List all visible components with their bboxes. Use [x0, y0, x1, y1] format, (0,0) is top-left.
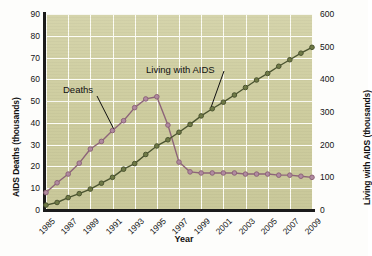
data-point	[210, 106, 215, 111]
data-point	[221, 100, 226, 105]
y-tick-label-left: 40	[16, 118, 40, 128]
data-point	[77, 161, 82, 166]
data-point	[66, 172, 71, 177]
data-point	[288, 173, 293, 178]
y-tick-label-right: 200	[320, 140, 346, 150]
data-point	[132, 105, 137, 110]
data-point	[166, 137, 171, 142]
y-tick-label-left: 30	[16, 140, 40, 150]
annotation-leader-deaths	[97, 96, 114, 129]
data-point	[121, 118, 126, 123]
data-point	[265, 71, 270, 76]
data-point	[199, 171, 204, 176]
y-tick-label-right: 400	[320, 74, 346, 84]
annotation-living-with-aids: Living with AIDS	[146, 64, 215, 75]
series-deaths	[44, 94, 315, 194]
y-tick-label-right: 100	[320, 172, 346, 182]
data-point	[243, 172, 248, 177]
data-point	[88, 187, 93, 192]
y-tick-label-right: 0	[320, 205, 346, 215]
data-point	[232, 93, 237, 98]
data-point	[143, 97, 148, 102]
y-tick-label-left: 90	[16, 9, 40, 19]
data-point	[132, 161, 137, 166]
data-point	[310, 175, 315, 180]
data-point	[177, 130, 182, 135]
y-tick-label-left: 0	[16, 205, 40, 215]
data-point	[155, 94, 160, 99]
data-point	[221, 171, 226, 176]
y-tick-label-right: 600	[320, 9, 346, 19]
data-point	[155, 144, 160, 149]
data-point	[99, 139, 104, 144]
data-point	[254, 78, 259, 83]
y-tick-label-left: 50	[16, 96, 40, 106]
data-point	[44, 190, 49, 195]
data-point	[299, 174, 304, 179]
data-point	[232, 171, 237, 176]
data-point	[110, 128, 115, 133]
series-line	[46, 97, 312, 193]
y-tick-label-left: 70	[16, 53, 40, 63]
data-point	[177, 160, 182, 165]
data-point	[110, 175, 115, 180]
data-point	[276, 64, 281, 69]
annotation-deaths: Deaths	[63, 84, 93, 95]
data-point	[143, 152, 148, 157]
data-point	[166, 123, 171, 128]
data-point	[276, 173, 281, 178]
data-point	[66, 195, 71, 200]
data-point	[55, 180, 60, 185]
data-point	[55, 200, 60, 205]
data-point	[243, 85, 248, 90]
data-point	[88, 147, 93, 152]
y-tick-label-left: 20	[16, 161, 40, 171]
y-tick-label-right: 300	[320, 107, 346, 117]
y-tick-label-right: 500	[320, 42, 346, 52]
data-point	[99, 181, 104, 186]
y-tick-label-left: 10	[16, 183, 40, 193]
data-point	[254, 172, 259, 177]
data-point	[188, 122, 193, 127]
data-point	[121, 167, 126, 172]
data-point	[288, 57, 293, 62]
data-point	[199, 114, 204, 119]
data-point	[188, 170, 193, 175]
data-point	[77, 191, 82, 196]
data-point	[299, 51, 304, 56]
data-point	[265, 172, 270, 177]
data-point	[210, 171, 215, 176]
y-tick-label-left: 80	[16, 31, 40, 41]
y-tick-label-left: 60	[16, 74, 40, 84]
data-point	[310, 45, 315, 50]
data-point	[44, 203, 49, 208]
